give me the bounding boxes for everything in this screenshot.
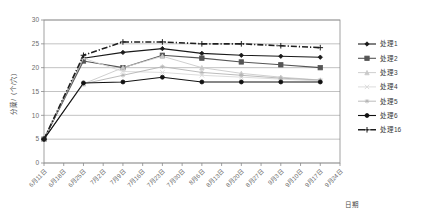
x-tick-label: 8月6日 <box>187 168 206 187</box>
series-line <box>44 58 320 139</box>
x-tick-label: 6月11日 <box>27 168 48 189</box>
y-tick-label: 30 <box>32 16 40 23</box>
x-tick-label: 9月17日 <box>303 168 324 189</box>
x-tick-label: 7月23日 <box>145 168 166 189</box>
data-point-marker <box>365 114 369 118</box>
y-tick-label: 5 <box>35 135 39 142</box>
legend-label-6[interactable]: 处理6 <box>380 111 398 120</box>
data-series-layer <box>41 39 323 142</box>
data-point-marker <box>279 54 283 58</box>
data-point-marker <box>239 80 243 84</box>
x-tick-label: 7月16日 <box>126 168 147 189</box>
line-chart: 051015202530 6月11日6月18日6月25日7月2日7月9日7月16… <box>0 0 440 219</box>
legend-label-2[interactable]: 处理2 <box>380 54 398 63</box>
x-axis-title: 日期 <box>345 201 359 209</box>
x-axis-ticks: 6月11日6月18日6月25日7月2日7月9日7月16日7月23日7月30日8月… <box>27 163 344 189</box>
data-point-marker <box>365 70 369 74</box>
y-axis-title: 分蘖/（个/穴） <box>9 69 18 115</box>
data-point-marker <box>160 46 164 50</box>
data-point-marker <box>318 80 322 84</box>
series-6 <box>42 75 322 141</box>
x-tick-label: 7月2日 <box>89 168 108 187</box>
y-tick-label: 25 <box>32 40 40 47</box>
data-point-marker <box>200 51 204 55</box>
data-point-marker <box>318 65 322 69</box>
x-tick-label: 7月30日 <box>165 168 186 189</box>
x-tick-label: 9月3日 <box>266 168 285 187</box>
series-4 <box>42 56 323 141</box>
data-point-marker <box>239 60 243 64</box>
data-point-marker <box>279 63 283 67</box>
data-point-marker <box>160 75 164 79</box>
y-tick-label: 15 <box>32 88 40 95</box>
data-point-marker <box>121 80 125 84</box>
x-tick-label: 8月20日 <box>224 168 245 189</box>
x-tick-label: 9月10日 <box>284 168 305 189</box>
data-point-marker <box>121 50 125 54</box>
series-2 <box>42 53 323 141</box>
y-tick-label: 0 <box>35 159 39 166</box>
chart-container: 051015202530 6月11日6月18日6月25日7月2日7月9日7月16… <box>0 0 440 219</box>
data-point-marker <box>200 65 204 69</box>
data-point-marker <box>81 81 85 85</box>
gridlines <box>44 20 340 163</box>
y-tick-label: 20 <box>32 64 40 71</box>
x-tick-label: 8月13日 <box>205 168 226 189</box>
y-axis-ticks: 051015202530 <box>32 16 44 166</box>
legend-label-5[interactable]: 处理5 <box>380 97 398 106</box>
legend-label-3[interactable]: 处理3 <box>380 68 398 77</box>
x-tick-label: 9月24日 <box>323 168 344 189</box>
legend-label-4[interactable]: 处理4 <box>380 82 398 91</box>
chart-legend: 处理1处理2处理3处理4处理5处理6处理16 <box>354 35 430 139</box>
data-point-marker <box>200 56 204 60</box>
data-point-marker <box>239 53 243 57</box>
y-tick-label: 10 <box>32 112 40 119</box>
series-line <box>44 77 320 139</box>
legend-label-1[interactable]: 处理1 <box>380 39 398 48</box>
x-tick-label: 7月9日 <box>108 168 127 187</box>
data-point-marker <box>365 42 369 46</box>
legend-label-7[interactable]: 处理16 <box>380 125 402 134</box>
data-point-marker <box>279 80 283 84</box>
x-tick-label: 8月27日 <box>244 168 265 189</box>
data-point-marker <box>318 55 322 59</box>
series-line <box>44 67 320 139</box>
data-point-marker <box>365 56 369 60</box>
series-line <box>44 56 320 139</box>
data-point-marker <box>200 80 204 84</box>
x-tick-label: 6月25日 <box>66 168 87 189</box>
x-tick-label: 6月18日 <box>47 168 68 189</box>
